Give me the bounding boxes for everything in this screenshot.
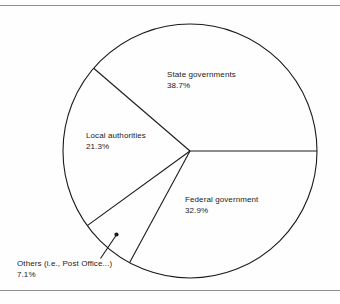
- slice-label-federal-government-name: Federal government: [185, 195, 258, 204]
- slice-label-local-authorities-name: Local authorities: [86, 131, 146, 140]
- pie-slice-dividers: [87, 68, 317, 262]
- pie-slice-divider: [130, 151, 190, 263]
- slice-label-others-percent: 7.1%: [17, 270, 112, 281]
- slice-label-others: Others (i.e., Post Office...) 7.1%: [17, 259, 112, 280]
- slice-label-others-name: Others (i.e., Post Office...): [17, 259, 112, 268]
- leader-line-segment: [101, 236, 117, 259]
- slice-label-state-governments-percent: 38.7%: [167, 81, 236, 92]
- slice-label-local-authorities: Local authorities 21.3%: [86, 131, 146, 152]
- slice-label-state-governments: State governments 38.7%: [167, 70, 236, 91]
- slice-label-federal-government-percent: 32.9%: [185, 206, 258, 217]
- pie-slice-divider: [87, 151, 190, 226]
- leader-dot: [114, 232, 118, 236]
- slice-label-local-authorities-percent: 21.3%: [86, 142, 146, 153]
- slice-label-state-governments-name: State governments: [167, 70, 236, 79]
- pie-chart-figure: State governments 38.7% Local authoritie…: [0, 0, 340, 304]
- slice-label-federal-government: Federal government 32.9%: [185, 195, 258, 216]
